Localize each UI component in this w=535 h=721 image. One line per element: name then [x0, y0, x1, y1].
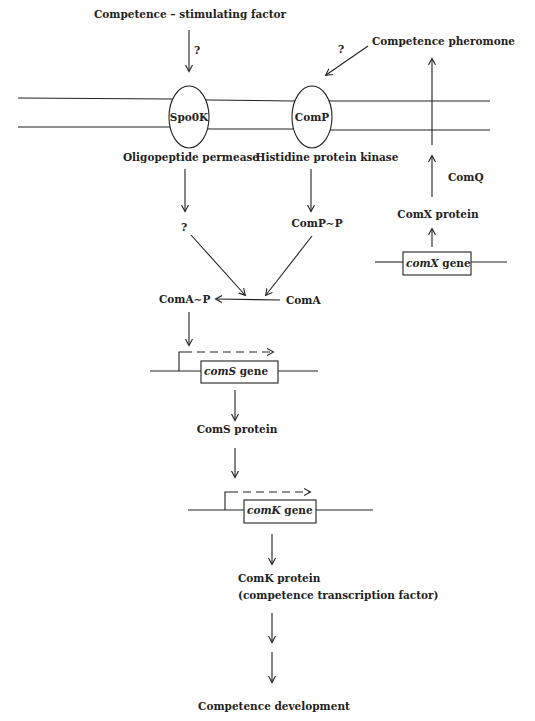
question-mark-pheromone: ? — [338, 44, 344, 55]
coms-gene-suffix: gene — [236, 365, 268, 377]
comx-protein-label: ComX protein — [397, 209, 478, 220]
competence-development-label: Competence development — [198, 701, 350, 712]
comx-gene-suffix: gene — [439, 257, 471, 269]
cell-membrane — [18, 98, 490, 130]
arrow-unknown-to-coma — [191, 235, 245, 295]
comk-gene-suffix: gene — [281, 504, 313, 516]
arrow-pheromone-to-comp — [326, 46, 368, 75]
comp-phospho-label: ComP∼P — [291, 218, 342, 229]
competence-pheromone-label: Competence pheromone — [372, 36, 515, 47]
comk-gene-name: comK — [247, 504, 281, 516]
coma-label: ComA — [286, 295, 321, 306]
unknown-intermediate-label: ? — [181, 222, 187, 233]
coms-gene-name: comS — [204, 365, 236, 377]
pathway-diagram-canvas — [0, 0, 535, 721]
comk-description-label: (competence transcription factor) — [238, 590, 439, 601]
spo0k-label: Spo0K — [170, 112, 208, 123]
arrow-coma-phosphorylation — [216, 299, 280, 300]
histidine-protein-kinase-caption: Histidine protein kinase — [256, 152, 399, 163]
question-mark-csf: ? — [194, 45, 200, 56]
comk-gene-label: comK gene — [247, 505, 313, 516]
coma-phospho-label: ComA∼P — [159, 294, 210, 305]
coms-gene-label: comS gene — [204, 366, 268, 377]
comp-label: ComP — [295, 112, 329, 123]
comx-gene-name: comX — [406, 257, 439, 269]
arrow-compp-to-coma — [266, 236, 312, 295]
competence-stimulating-factor-label: Competence – stimulating factor — [94, 9, 286, 20]
comq-label: ComQ — [448, 172, 484, 183]
coms-protein-label: ComS protein — [197, 424, 278, 435]
comk-protein-label: ComK protein — [238, 573, 320, 584]
oligopeptide-permease-caption: Oligopeptide permease — [123, 152, 259, 163]
comx-gene-label: comX gene — [406, 258, 471, 269]
